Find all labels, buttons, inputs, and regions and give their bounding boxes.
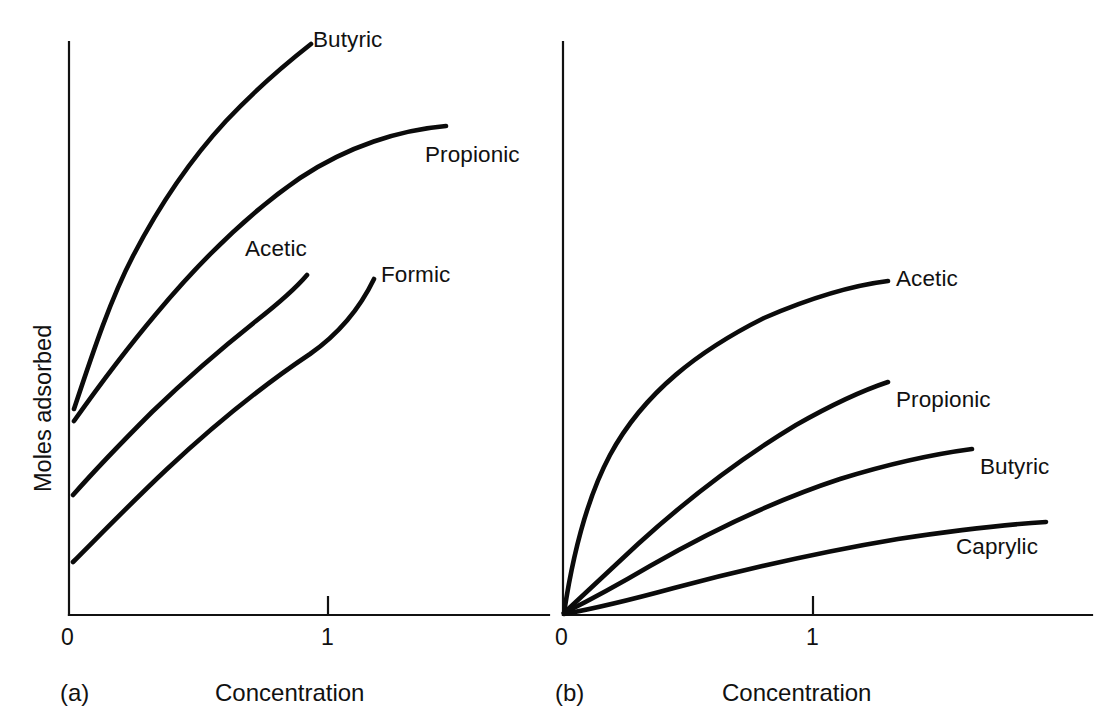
panel-b-xtick-label-0: 0: [555, 626, 568, 649]
panel-b-x-axis-title: Concentration: [722, 681, 871, 705]
panel-a-curve-formic: [73, 279, 374, 562]
panel-a-series-label-acetic: Acetic: [245, 238, 307, 261]
panel-b-series-label-acetic: Acetic: [896, 268, 958, 291]
adsorption-isotherm-figure: Moles adsorbed Butyric Propionic Acetic …: [0, 0, 1104, 724]
chart-panel-b: Acetic Propionic Butyric Caprylic 0 1 (b…: [552, 0, 1104, 724]
panel-b-curve-butyric: [564, 449, 972, 613]
panel-a-x-axis-title: Concentration: [215, 681, 364, 705]
panel-b-series-label-propionic: Propionic: [896, 389, 991, 412]
panel-b-series-label-butyric: Butyric: [980, 456, 1049, 479]
panel-b-series-label-caprylic: Caprylic: [956, 536, 1038, 559]
panel-a-xtick-label-0: 0: [61, 626, 74, 649]
panel-a-caption: (a): [60, 681, 89, 705]
panel-a-series-label-propionic: Propionic: [425, 144, 520, 167]
panel-a-xtick-label-1: 1: [321, 626, 334, 649]
panel-b-xtick-label-1: 1: [806, 626, 819, 649]
panel-a-y-axis-title: Moles adsorbed: [32, 325, 56, 492]
panel-b-curve-propionic: [564, 382, 888, 613]
panel-b-curve-acetic: [564, 281, 888, 613]
panel-b-plot-area: [552, 0, 1104, 724]
panel-a-series-label-butyric: Butyric: [313, 29, 382, 52]
panel-b-caption: (b): [555, 681, 584, 705]
chart-panel-a: Moles adsorbed Butyric Propionic Acetic …: [0, 0, 552, 724]
panel-a-curve-butyric: [74, 44, 311, 409]
panel-a-plot-area: [0, 0, 552, 724]
panel-a-series-label-formic: Formic: [381, 264, 450, 287]
